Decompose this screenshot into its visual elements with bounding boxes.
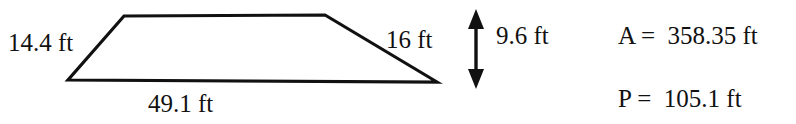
label-bottom-base: 49.1 ft [148, 91, 213, 116]
label-perimeter-result: P = 105.1 ft [618, 86, 742, 111]
double-headed-vertical-arrow-icon [468, 9, 484, 89]
arrow-head-up [468, 9, 484, 29]
label-area-result: A = 358.35 ft [618, 23, 758, 48]
label-right-leg: 16 ft [386, 27, 433, 52]
trapezoid-outline [68, 15, 437, 82]
geometry-figure: 14.4 ft 49.1 ft 16 ft 9.6 ft A = 358.35 … [0, 0, 796, 124]
arrow-head-down [468, 69, 484, 89]
label-height: 9.6 ft [496, 23, 549, 48]
label-left-leg: 14.4 ft [8, 30, 73, 55]
